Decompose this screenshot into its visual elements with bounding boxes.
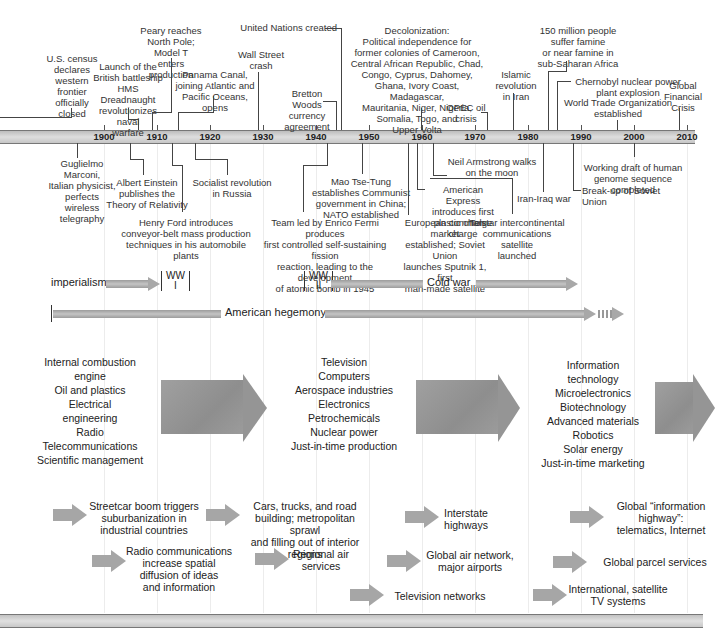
event-armstrong-moon: Neil Armstrong walks on the moon	[447, 156, 537, 178]
arrow-icon	[350, 584, 384, 606]
tech-wave-arrow	[161, 374, 267, 442]
event-telstar: Telstar intercontinental communications …	[467, 217, 567, 261]
event-wall-street-crash: Wall Street crash	[236, 49, 286, 71]
event-islamic-revolution: Islamic revolution in Iran	[494, 69, 538, 102]
event-panama-canal: Panama Canal, joining Atlantic and Pacif…	[172, 69, 258, 113]
innovation-streetcar: Streetcar boom triggers suburbanization …	[82, 500, 206, 536]
innovation-information-highway: Global “information highway”: telematics…	[600, 500, 722, 536]
tech-wave-3: Information technology Microelectronics …	[537, 358, 649, 470]
tech-wave-arrow	[655, 374, 715, 442]
event-henry-ford: Henry Ford introduces conveyor-belt mass…	[118, 217, 254, 261]
event-sahel-famine: 150 million people suffer famine or near…	[533, 25, 623, 69]
event-socialist-revolution: Socialist revolution in Russia	[192, 177, 272, 199]
year-label: 1990	[570, 131, 591, 142]
innovation-global-air-network: Global air network, major airports	[420, 549, 520, 573]
event-bretton-woods: Bretton Woods currency agreement	[276, 88, 338, 132]
arrow-icon	[255, 548, 289, 570]
era-imperialism: imperialism	[51, 276, 107, 288]
year-label: 1920	[199, 131, 220, 142]
year-label: 1940	[305, 131, 326, 142]
arrow-icon	[553, 551, 587, 573]
year-label: 1980	[517, 131, 538, 142]
innovation-global-parcel: Global parcel services	[590, 556, 720, 568]
event-united-nations: United Nations created	[237, 22, 337, 33]
era-cold-war: Cold war	[427, 276, 470, 288]
event-global-financial-crisis: Global Financial Crisis	[658, 80, 708, 113]
innovation-interstate-highways: Interstate highways	[436, 507, 496, 531]
event-einstein-relativity: Albert Einstein publishes the Theory of …	[106, 177, 188, 210]
arrow-icon	[570, 506, 604, 528]
innovation-satellite-tv: International, satellite TV systems	[562, 583, 674, 607]
arrow-icon	[387, 550, 421, 572]
year-label: 2010	[676, 131, 697, 142]
arrow-icon	[405, 506, 439, 528]
bottom-band	[0, 614, 703, 628]
year-label: 1930	[252, 131, 273, 142]
event-opec-crisis: OPEC oil crisis	[444, 102, 488, 124]
event-soviet-breakup: Break-up of Soviet Union	[582, 185, 678, 207]
innovation-radio-communications: Radio communications increase spatial di…	[118, 545, 240, 593]
era-world-war-2: WW II	[304, 271, 333, 291]
event-iran-iraq-war: Iran-Iraq war	[514, 193, 574, 204]
innovation-regional-air: Regional air services	[285, 548, 357, 572]
arrow-icon	[206, 504, 240, 526]
event-mao-nato: Mao Tse-Tung establishes Communist gover…	[310, 176, 412, 220]
tech-wave-2: Television Computers Aerospace industrie…	[282, 355, 406, 453]
gridline	[528, 143, 529, 613]
tech-wave-1: Internal combustion engine Oil and plast…	[18, 355, 162, 467]
year-label: 2000	[623, 131, 644, 142]
tech-wave-arrow	[416, 374, 520, 442]
era-american-hegemony: American hegemony	[225, 306, 326, 318]
innovation-television-networks: Television networks	[388, 590, 492, 602]
era-world-war-1: WW I	[161, 271, 190, 291]
